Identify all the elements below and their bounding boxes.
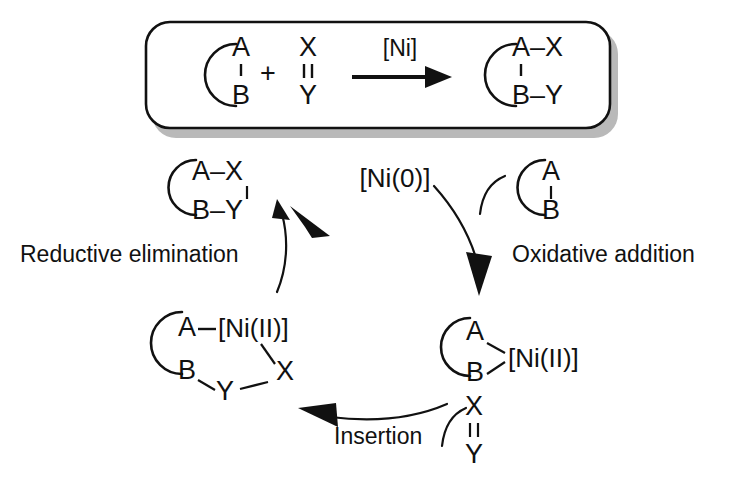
box-reagent-atom-x: X bbox=[299, 32, 317, 62]
released-product-bottom-pair: B–Y bbox=[192, 195, 243, 225]
box-product-top-pair: A–X bbox=[512, 32, 563, 62]
entering-reagent-atom-x: X bbox=[465, 391, 483, 421]
product-release-arrow-head-icon bbox=[272, 199, 290, 220]
inserted-atom-x: X bbox=[276, 356, 294, 386]
nickelacycle-atom-a: A bbox=[466, 316, 484, 346]
inserted-atom-a: A bbox=[178, 312, 196, 342]
step-label-reductive-elimination: Reductive elimination bbox=[20, 241, 239, 267]
intermediate-nickelacycle: A B [Ni(II)] bbox=[441, 316, 579, 387]
cycle-arrow-oa-head-icon bbox=[466, 252, 492, 296]
released-product-top-pair: A–X bbox=[192, 156, 243, 186]
entering-substrate-atom-a: A bbox=[542, 156, 560, 186]
released-product-structure: A–X B–Y bbox=[169, 156, 248, 225]
catalyst-center-label: [Ni(0)] bbox=[360, 163, 431, 193]
cycle-arrow-insertion-shaft bbox=[330, 404, 447, 419]
box-product-bottom-pair: B–Y bbox=[512, 80, 563, 110]
cycle-arrow-oa-shaft bbox=[434, 186, 476, 258]
box-catalyst-label: [Ni] bbox=[383, 35, 418, 61]
inserted-atom-b: B bbox=[178, 355, 196, 385]
nickelacycle-metal-label: [Ni(II)] bbox=[508, 343, 579, 373]
inserted-atom-y: Y bbox=[216, 376, 234, 406]
box-substrate-atom-a: A bbox=[232, 32, 250, 62]
box-plus-sign: + bbox=[260, 58, 276, 88]
entering-substrate-atom-b: B bbox=[542, 195, 560, 225]
inserted-bond-metal-x bbox=[261, 344, 275, 364]
box-substrate-atom-b: B bbox=[232, 80, 250, 110]
entering-substrate-ring-icon bbox=[518, 160, 546, 215]
inserted-bond-y-x bbox=[240, 382, 268, 389]
inserted-bond-b-y bbox=[198, 380, 215, 390]
cycle-arrow-re-head-icon bbox=[290, 206, 330, 238]
catalytic-cycle-figure: A B + X Y [Ni] A–X B–Y [Ni(0)] bbox=[0, 0, 749, 490]
nickelacycle-bond-a-metal bbox=[487, 343, 505, 353]
product-release-arrow bbox=[272, 199, 290, 292]
entering-reagent-structure: X Y bbox=[465, 391, 483, 469]
intermediate-inserted-nickelacycle: A [Ni(II)] B X Y bbox=[151, 312, 294, 406]
nickelacycle-bond-b-metal bbox=[487, 362, 505, 374]
overall-reaction-box: A B + X Y [Ni] A–X B–Y bbox=[146, 22, 618, 138]
entering-reagent-atom-y: Y bbox=[465, 439, 483, 469]
entering-substrate-structure: A B bbox=[518, 156, 561, 225]
step-label-oxidative-addition: Oxidative addition bbox=[512, 241, 695, 267]
box-reagent-atom-y: Y bbox=[299, 80, 317, 110]
substrate-entry-arrow bbox=[480, 176, 505, 214]
inserted-metal-label: [Ni(II)] bbox=[218, 313, 289, 343]
cycle-arrow-reductive-elimination bbox=[290, 206, 330, 238]
product-release-arrow-shaft bbox=[277, 214, 286, 292]
step-label-insertion: Insertion bbox=[334, 423, 422, 449]
reagent-entry-arrow bbox=[442, 408, 466, 446]
cycle-arrow-insertion-head-icon bbox=[298, 403, 338, 427]
nickelacycle-atom-b: B bbox=[466, 357, 484, 387]
